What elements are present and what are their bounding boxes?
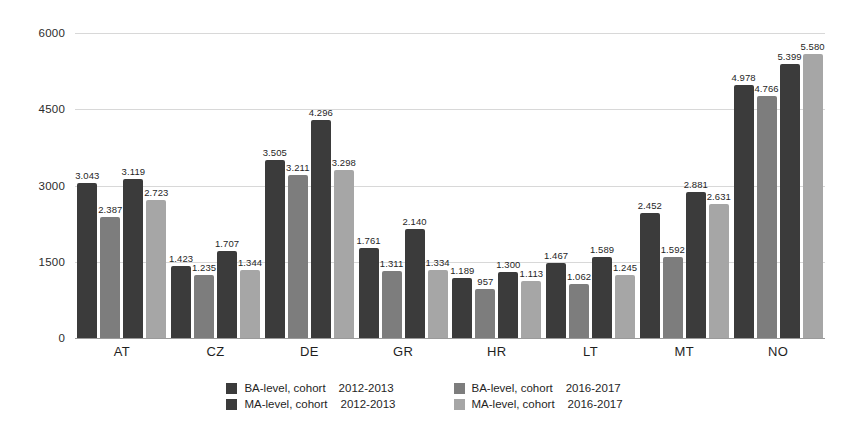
bar[interactable]: [194, 275, 214, 338]
bar-value-label: 1.589: [590, 244, 614, 255]
bar-slot: 957: [475, 33, 495, 338]
bar-slot: 2.452: [640, 33, 660, 338]
bar-slot: 1.592: [663, 33, 683, 338]
legend-item[interactable]: MA-level, cohort2016-2017: [454, 398, 623, 410]
bar-value-label: 1.300: [496, 259, 520, 270]
bar[interactable]: [288, 175, 308, 338]
bar-slot: 1.245: [615, 33, 635, 338]
bar[interactable]: [334, 170, 354, 338]
bar[interactable]: [803, 54, 823, 338]
bar[interactable]: [359, 248, 379, 338]
legend-item[interactable]: BA-level, cohort2012-2013: [226, 382, 395, 394]
y-axis-tick-label: 4500: [5, 103, 65, 115]
bar-slot: 1.300: [498, 33, 518, 338]
legend-item[interactable]: MA-level, cohort2012-2013: [226, 398, 395, 410]
bar[interactable]: [734, 85, 754, 338]
bar-value-label: 1.113: [520, 268, 544, 279]
bar-slot: 1.589: [592, 33, 612, 338]
legend-item[interactable]: BA-level, cohort2016-2017: [454, 382, 623, 394]
x-axis-category-label: GR: [356, 344, 450, 359]
bar-slot: 1.344: [240, 33, 260, 338]
y-axis-tick-label: 0: [5, 332, 65, 344]
bar-group: 3.0432.3873.1192.723: [75, 33, 169, 338]
bar[interactable]: [757, 96, 777, 338]
bar-slot: 1.707: [217, 33, 237, 338]
bar-value-label: 1.761: [356, 235, 380, 246]
axis-baseline: [75, 338, 825, 339]
bar-value-label: 1.334: [425, 257, 449, 268]
bar[interactable]: [405, 229, 425, 338]
bar-slot: 3.119: [123, 33, 143, 338]
bar-value-label: 2.723: [144, 187, 168, 198]
bar[interactable]: [475, 289, 495, 338]
y-axis-tick-label: 1500: [5, 256, 65, 268]
bar-group: 1.1899571.3001.113: [450, 33, 544, 338]
bar-slot: 2.881: [686, 33, 706, 338]
bar[interactable]: [452, 278, 472, 338]
legend-cohort: 2016-2017: [568, 398, 623, 410]
bar[interactable]: [592, 257, 612, 338]
y-axis-tick-label: 6000: [5, 27, 65, 39]
bar-value-label: 2.387: [98, 204, 122, 215]
bar[interactable]: [709, 204, 729, 338]
bar[interactable]: [265, 160, 285, 338]
bar-groups: 3.0432.3873.1192.7231.4231.2351.7071.344…: [75, 33, 825, 338]
bar[interactable]: [240, 270, 260, 338]
bar[interactable]: [640, 213, 660, 338]
x-axis-category-label: HR: [450, 344, 544, 359]
bar[interactable]: [382, 271, 402, 338]
legend-cohort: 2012-2013: [339, 382, 394, 394]
bar-value-label: 2.452: [638, 200, 662, 211]
bar-slot: 1.311: [382, 33, 402, 338]
bar[interactable]: [686, 192, 706, 338]
bar-group: 1.7611.3112.1401.334: [356, 33, 450, 338]
bar-value-label: 1.344: [238, 257, 262, 268]
legend-swatch: [226, 399, 237, 410]
bar[interactable]: [428, 270, 448, 338]
legend-swatch: [226, 383, 237, 394]
legend-label: BA-level, cohort: [472, 382, 553, 394]
bar-value-label: 3.505: [263, 147, 287, 158]
bar-slot: 1.467: [546, 33, 566, 338]
bar-value-label: 1.189: [450, 265, 474, 276]
bar-value-label: 2.881: [684, 179, 708, 190]
bar-slot: 4.296: [311, 33, 331, 338]
bar[interactable]: [311, 120, 331, 338]
bar-slot: 1.334: [428, 33, 448, 338]
bar-value-label: 1.423: [169, 253, 193, 264]
bar-value-label: 1.062: [567, 271, 591, 282]
bar[interactable]: [663, 257, 683, 338]
bar-value-label: 5.399: [777, 51, 801, 62]
bar-slot: 5.580: [803, 33, 823, 338]
legend-label: BA-level, cohort: [244, 382, 325, 394]
bar[interactable]: [780, 64, 800, 338]
bar[interactable]: [123, 179, 143, 338]
bar-slot: 3.505: [265, 33, 285, 338]
bar[interactable]: [546, 263, 566, 338]
bar-slot: 3.211: [288, 33, 308, 338]
bar[interactable]: [171, 266, 191, 338]
bar[interactable]: [498, 272, 518, 338]
bar-slot: 2.140: [405, 33, 425, 338]
bar-value-label: 4.296: [309, 107, 333, 118]
bar[interactable]: [521, 281, 541, 338]
bar-group: 1.4671.0621.5891.245: [544, 33, 638, 338]
bar-slot: 4.766: [757, 33, 777, 338]
bar-slot: 3.298: [334, 33, 354, 338]
bar-chart: 01500300045006000 3.0432.3873.1192.7231.…: [0, 0, 849, 446]
bar[interactable]: [615, 275, 635, 338]
bar-slot: 5.399: [780, 33, 800, 338]
legend-label: MA-level, cohort: [244, 398, 327, 410]
x-axis-category-label: NO: [731, 344, 825, 359]
bar[interactable]: [77, 183, 97, 338]
legend-grid: BA-level, cohort2012-2013BA-level, cohor…: [226, 382, 622, 410]
bar[interactable]: [100, 217, 120, 338]
bar-value-label: 3.298: [332, 157, 356, 168]
chart-legend: BA-level, cohort2012-2013BA-level, cohor…: [0, 382, 849, 410]
bar[interactable]: [569, 284, 589, 338]
bar[interactable]: [217, 251, 237, 338]
legend-cohort: 2012-2013: [341, 398, 396, 410]
bar[interactable]: [146, 200, 166, 338]
bar-group: 4.9784.7665.3995.580: [731, 33, 825, 338]
bar-slot: 2.387: [100, 33, 120, 338]
